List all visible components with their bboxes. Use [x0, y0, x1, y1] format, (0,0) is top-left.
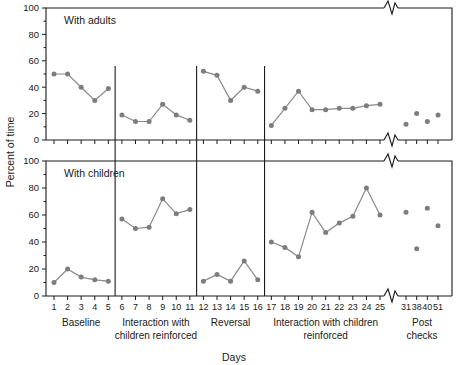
data-point [436, 223, 441, 228]
chart-figure: 020406080100With adults020406080100With … [0, 0, 461, 365]
axis-break-top [384, 154, 398, 167]
x-tick-label: 38 [412, 302, 422, 312]
data-point [350, 214, 355, 219]
axis-break-bottom [384, 133, 398, 146]
axis-break-top [384, 1, 398, 14]
panel-title-with-children: With children [64, 167, 125, 179]
y-tick-label: 20 [28, 263, 39, 274]
data-point [255, 89, 260, 94]
x-axis-title: Days [222, 351, 246, 363]
y-tick-label: 80 [28, 29, 39, 40]
data-point [323, 230, 328, 235]
data-point [414, 111, 419, 116]
data-point [242, 258, 247, 263]
data-point [378, 102, 383, 107]
data-point [350, 106, 355, 111]
x-tick-labels: 1234567891011121314151617181920212223242… [51, 302, 443, 312]
x-tick-label: 18 [280, 302, 290, 312]
phase-labels: BaselineInteraction withchildren reinfor… [62, 317, 438, 341]
panel-with-children: 020406080100With children [23, 154, 452, 302]
data-point [119, 217, 124, 222]
data-point [174, 112, 179, 117]
data-point [201, 279, 206, 284]
x-tick-label: 8 [147, 302, 152, 312]
x-tick-label: 13 [212, 302, 222, 312]
y-tick-label: 40 [28, 236, 39, 247]
data-point [364, 103, 369, 108]
series-line [203, 261, 257, 281]
phase-label: Interaction with children [273, 317, 378, 328]
data-point [160, 196, 165, 201]
phase-label: Interaction with [122, 317, 189, 328]
data-point [92, 277, 97, 282]
x-tick-label: 25 [375, 302, 385, 312]
phase-label: Post [412, 317, 432, 328]
x-tick-label: 9 [160, 302, 165, 312]
x-tick-label: 1 [51, 302, 56, 312]
data-point [52, 72, 57, 77]
data-point [174, 211, 179, 216]
series-line [122, 104, 190, 121]
y-tick-label: 0 [34, 134, 39, 145]
data-point [414, 246, 419, 251]
y-tick-label: 40 [28, 82, 39, 93]
x-tick-label: 14 [226, 302, 236, 312]
data-point [242, 85, 247, 90]
x-tick-label: 11 [185, 302, 194, 312]
x-tick-label: 17 [266, 302, 276, 312]
phase-label: Baseline [62, 317, 101, 328]
phase-label: reinforced [303, 330, 347, 341]
panel-frame-top-right [398, 161, 452, 296]
y-axis-title: Percent of time [4, 117, 16, 188]
data-point [323, 107, 328, 112]
x-tick-label: 23 [348, 302, 358, 312]
data-point [269, 240, 274, 245]
phase-label: Reversal [211, 317, 250, 328]
data-point [147, 225, 152, 230]
data-point [425, 119, 430, 124]
data-point [337, 221, 342, 226]
x-tick-label: 16 [253, 302, 263, 312]
y-tick-label: 20 [28, 108, 39, 119]
data-point [228, 279, 233, 284]
data-point [147, 119, 152, 124]
x-tick-label: 10 [171, 302, 181, 312]
x-tick-label: 20 [307, 302, 317, 312]
data-point [296, 89, 301, 94]
x-tick-label: 5 [106, 302, 111, 312]
data-point [425, 206, 430, 211]
y-tick-label: 100 [23, 2, 39, 13]
data-point [269, 123, 274, 128]
x-tick-label: 7 [133, 302, 138, 312]
x-tick-label: 2 [65, 302, 70, 312]
panel-with-adults: 020406080100With adults [23, 1, 452, 146]
y-tick-label: 100 [23, 155, 39, 166]
data-point [52, 280, 57, 285]
phase-label: children reinforced [115, 330, 197, 341]
data-point [106, 279, 111, 284]
chart-canvas: 020406080100With adults020406080100With … [0, 0, 461, 365]
data-point [337, 106, 342, 111]
phase-label: checks [406, 330, 437, 341]
data-point [296, 254, 301, 259]
data-point [133, 226, 138, 231]
x-tick-label: 40 [422, 302, 432, 312]
data-point [436, 112, 441, 117]
series-line [271, 188, 380, 257]
data-point [255, 277, 260, 282]
x-tick-label: 21 [321, 302, 331, 312]
x-tick-label: 15 [239, 302, 249, 312]
data-point [215, 272, 220, 277]
data-point [378, 213, 383, 218]
data-point [404, 210, 409, 215]
data-point [133, 119, 138, 124]
data-point [65, 72, 70, 77]
data-point [92, 98, 97, 103]
x-tick-label: 31 [401, 302, 411, 312]
data-point [79, 85, 84, 90]
x-tick-label: 6 [119, 302, 124, 312]
x-tick-label: 12 [198, 302, 208, 312]
series-line [122, 199, 190, 229]
data-point [65, 267, 70, 272]
data-point [201, 69, 206, 74]
